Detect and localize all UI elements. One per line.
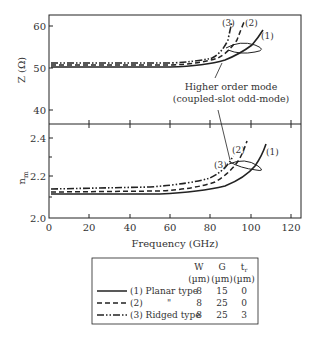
top-ytick-40: 40 [33,105,46,116]
bottom-y-ticks [49,138,53,197]
legend-unit-t: (µm) [233,274,254,284]
xtick-120: 120 [281,222,300,233]
top-label-2: (2) [245,18,258,28]
bottom-ytick-2.2: 2.2 [30,171,46,182]
bottom-y-axis-label: nm [16,171,30,184]
legend-row3-g: 25 [216,310,228,320]
legend-row1-t: 0 [241,286,247,296]
legend-row1-w: 8 [196,286,202,296]
mode-annotation-line2: (coupled-slot odd-mode) [173,93,290,104]
bottom-x-ticks [89,214,291,218]
legend-header-g: G [218,262,225,272]
legend-row3-t: 3 [241,310,247,320]
mode-annotation-line1: Higher order mode [185,81,278,92]
top-curves [51,22,263,67]
legend-row1-g: 15 [216,286,228,296]
xtick-60: 60 [164,222,177,233]
legend-row2-label: (2) [130,298,143,308]
bottom-label-2: (2) [232,145,245,155]
xtick-100: 100 [241,222,260,233]
top-curve-3 [51,22,232,63]
top-y-axis-label: Z (Ω) [16,57,27,83]
top-ytick-60: 60 [33,21,46,32]
legend-row2-t: 0 [241,298,247,308]
bottom-label-1: (1) [266,147,279,157]
legend-header-w: W [194,262,204,272]
bottom-ytick-2.4: 2.4 [30,133,46,144]
legend-row2-g: 25 [216,298,228,308]
legend-table: W G tr (µm) (µm) (µm) (1) Planar type 8 … [92,258,258,324]
bottom-label-3: (3) [214,160,227,170]
top-ytick-50: 50 [33,63,46,74]
top-label-3: (3) [222,18,235,28]
legend-row1-label: (1) Planar type [130,286,198,296]
legend-row3-label: (3) Ridged type [130,310,201,320]
top-label-1: (1) [261,31,274,41]
xtick-20: 20 [83,222,96,233]
legend-row2-ditto: " [167,298,171,308]
legend-row3-w: 8 [196,310,202,320]
top-y-ticks [49,26,53,110]
xtick-40: 40 [124,222,137,233]
annotation-leaders [215,63,230,160]
x-axis-label: Frequency (GHz) [131,238,218,249]
legend-header-t: tr [241,262,248,273]
legend-unit-w: (µm) [188,274,209,284]
bottom-ytick-2.0: 2.0 [30,213,46,224]
legend-row2-w: 8 [196,298,202,308]
xtick-80: 80 [204,222,217,233]
figure: 60 50 40 Z (Ω) 2.4 2.2 2.0 nm 0 20 40 [0,0,316,337]
xtick-0: 0 [46,222,52,233]
top-curve-2 [51,22,244,65]
legend-unit-g: (µm) [211,274,232,284]
